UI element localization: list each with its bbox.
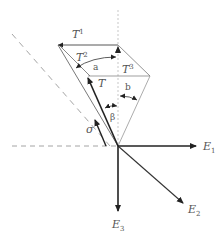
label-E3: E3 — [111, 218, 125, 233]
angle-beta-arc — [105, 106, 117, 108]
E2-axis — [118, 146, 183, 203]
label-angle-beta: β — [110, 112, 115, 122]
label-angle-b: b — [125, 82, 131, 92]
label-T3: T3 — [122, 63, 134, 76]
label-E2: E2 — [187, 203, 201, 218]
label-T: T — [98, 77, 107, 90]
label-angle-a: a — [93, 62, 99, 72]
label-E1: E1 — [202, 140, 216, 155]
stress-vector-diagram: T1 T2 T3 a T b β σ E1 E2 E3 — [0, 0, 222, 239]
sigma-vector — [95, 120, 106, 146]
angle-b-arc — [120, 96, 137, 100]
label-sigma: σ — [86, 123, 94, 136]
label-T2: T2 — [76, 51, 88, 64]
right-cone-edge — [118, 76, 150, 146]
label-T1: T1 — [72, 28, 84, 41]
